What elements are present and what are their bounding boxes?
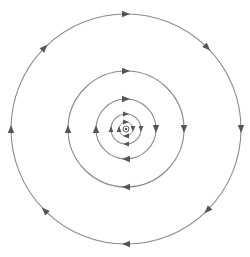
direction-arrow-icon [93, 125, 99, 133]
direction-arrow-icon [8, 125, 14, 133]
direction-arrow-icon [123, 112, 129, 117]
direction-arrow-icon [122, 96, 130, 102]
direction-arrow-icon [122, 68, 130, 74]
direction-arrow-icon [122, 184, 130, 190]
field-line-diagram [0, 0, 250, 257]
wire-dot-icon [125, 128, 127, 130]
direction-arrow-icon [117, 126, 122, 132]
direction-arrow-icon [181, 125, 187, 133]
direction-arrow-icon [131, 126, 136, 132]
direction-arrow-icon [122, 156, 130, 162]
current-out-of-page-icon [123, 126, 129, 132]
direction-arrow-icon [65, 125, 71, 133]
direction-arrow-icon [123, 134, 129, 139]
direction-arrow-icon [109, 126, 114, 132]
direction-arrow-icon [123, 142, 129, 147]
direction-arrow-icon [122, 11, 130, 17]
direction-arrow-icon [122, 241, 130, 247]
direction-arrow-icon [238, 125, 244, 133]
direction-arrow-icon [139, 126, 144, 132]
direction-arrow-icon [153, 125, 159, 133]
direction-arrow-icon [123, 120, 129, 125]
